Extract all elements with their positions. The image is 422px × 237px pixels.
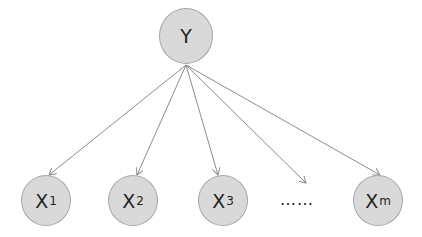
ellipsis: …… [280,190,314,209]
edge-y-x2 [137,65,186,175]
edge-y-ellipsis [186,65,306,183]
node-xm: Xm [353,175,403,226]
node-y-label: Y [180,25,192,47]
edge-y-x3 [186,65,218,175]
node-x3: X3 [198,175,248,226]
node-xm-label: X [365,190,378,212]
node-xm-subscript: m [379,194,391,208]
node-x2: X2 [108,175,158,226]
node-x1-label: X [35,190,48,212]
node-x3-subscript: 3 [226,194,234,208]
node-x2-label: X [122,190,135,212]
node-x3-label: X [212,190,225,212]
node-y: Y [159,8,213,64]
edge-y-x1 [49,65,186,175]
node-x1-subscript: 1 [49,194,57,208]
node-x2-subscript: 2 [136,194,144,208]
edge-y-xm [186,65,380,175]
node-x1: X1 [21,175,71,226]
